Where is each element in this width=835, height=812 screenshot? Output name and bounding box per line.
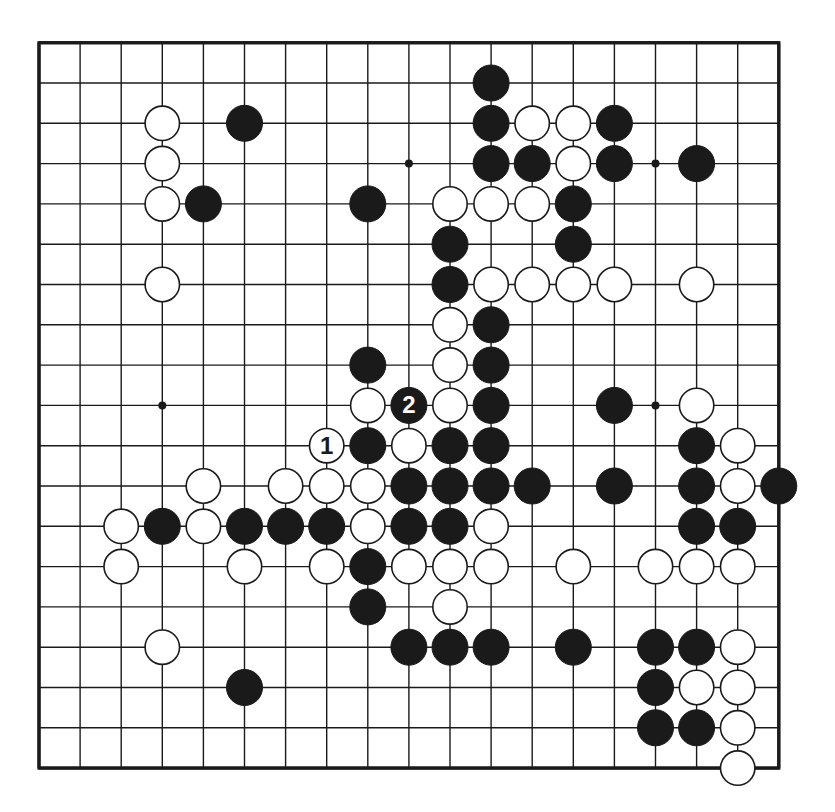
black-stone[interactable] [473, 146, 509, 182]
black-stone[interactable] [638, 710, 674, 746]
white-stone[interactable] [433, 549, 467, 583]
black-stone[interactable] [473, 105, 509, 141]
white-stone[interactable] [721, 711, 755, 745]
black-stone[interactable] [473, 387, 509, 423]
white-stone[interactable] [392, 429, 426, 463]
white-stone[interactable] [721, 469, 755, 503]
white-stone[interactable] [145, 267, 179, 301]
black-stone[interactable] [473, 428, 509, 464]
black-stone[interactable] [227, 508, 263, 544]
black-stone[interactable] [638, 670, 674, 706]
white-stone[interactable] [145, 106, 179, 140]
white-stone[interactable] [433, 590, 467, 624]
black-stone[interactable] [185, 186, 221, 222]
black-stone[interactable] [679, 146, 715, 182]
white-stone[interactable] [310, 549, 344, 583]
white-stone[interactable] [186, 469, 220, 503]
white-stone[interactable] [597, 267, 631, 301]
white-stone[interactable] [556, 267, 590, 301]
white-stone[interactable] [679, 388, 713, 422]
black-stone[interactable] [391, 629, 427, 665]
black-stone[interactable] [596, 146, 632, 182]
black-stone[interactable] [432, 267, 468, 303]
white-stone[interactable] [679, 670, 713, 704]
white-stone[interactable] [721, 549, 755, 583]
white-stone[interactable] [721, 429, 755, 463]
white-stone[interactable] [104, 549, 138, 583]
white-stone[interactable] [556, 106, 590, 140]
black-stone[interactable] [391, 508, 427, 544]
white-stone[interactable] [515, 106, 549, 140]
black-stone[interactable] [555, 226, 591, 262]
white-stone[interactable] [515, 187, 549, 221]
black-stone[interactable] [309, 508, 345, 544]
white-stone[interactable] [515, 267, 549, 301]
white-stone[interactable] [145, 146, 179, 180]
black-stone[interactable] [350, 347, 386, 383]
black-stone[interactable] [473, 629, 509, 665]
black-stone[interactable] [761, 468, 797, 504]
white-stone[interactable] [145, 630, 179, 664]
black-stone[interactable] [350, 589, 386, 625]
white-stone[interactable] [638, 549, 672, 583]
black-stone[interactable] [391, 468, 427, 504]
white-stone[interactable] [433, 308, 467, 342]
black-stone[interactable] [227, 105, 263, 141]
numbered-stone-2[interactable]: 2 [391, 387, 427, 423]
white-stone[interactable] [721, 630, 755, 664]
white-stone[interactable] [104, 509, 138, 543]
black-stone[interactable] [679, 428, 715, 464]
black-stone[interactable] [720, 508, 756, 544]
black-stone[interactable] [473, 307, 509, 343]
white-stone[interactable] [351, 509, 385, 543]
white-stone[interactable] [474, 549, 508, 583]
white-stone[interactable] [227, 549, 261, 583]
white-stone[interactable] [186, 509, 220, 543]
white-stone[interactable] [474, 509, 508, 543]
black-stone[interactable] [514, 468, 550, 504]
black-stone[interactable] [679, 508, 715, 544]
black-stone[interactable] [350, 549, 386, 585]
white-stone[interactable] [474, 267, 508, 301]
black-stone[interactable] [596, 105, 632, 141]
black-stone[interactable] [473, 468, 509, 504]
black-stone[interactable] [432, 428, 468, 464]
white-stone[interactable] [679, 267, 713, 301]
black-stone[interactable] [432, 508, 468, 544]
white-stone[interactable] [392, 549, 426, 583]
white-stone[interactable] [433, 187, 467, 221]
black-stone[interactable] [473, 65, 509, 101]
white-stone[interactable] [268, 469, 302, 503]
black-stone[interactable] [432, 468, 468, 504]
white-stone[interactable] [679, 549, 713, 583]
white-stone[interactable] [556, 146, 590, 180]
black-stone[interactable] [268, 508, 304, 544]
black-stone[interactable] [350, 428, 386, 464]
black-stone[interactable] [432, 226, 468, 262]
black-stone[interactable] [555, 186, 591, 222]
black-stone[interactable] [350, 186, 386, 222]
white-stone[interactable] [433, 348, 467, 382]
black-stone[interactable] [638, 629, 674, 665]
black-stone[interactable] [596, 387, 632, 423]
black-stone[interactable] [679, 629, 715, 665]
white-stone[interactable] [556, 549, 590, 583]
white-stone[interactable] [351, 388, 385, 422]
black-stone[interactable] [514, 146, 550, 182]
black-stone[interactable] [679, 468, 715, 504]
black-stone[interactable] [596, 468, 632, 504]
white-stone[interactable] [721, 751, 755, 785]
black-stone[interactable] [473, 347, 509, 383]
white-stone[interactable] [351, 469, 385, 503]
white-stone[interactable] [721, 670, 755, 704]
black-stone[interactable] [679, 710, 715, 746]
black-stone[interactable] [227, 670, 263, 706]
numbered-stone-1[interactable]: 1 [310, 429, 344, 463]
white-stone[interactable] [433, 388, 467, 422]
white-stone[interactable] [310, 469, 344, 503]
black-stone[interactable] [432, 629, 468, 665]
white-stone[interactable] [474, 187, 508, 221]
white-stone[interactable] [145, 187, 179, 221]
black-stone[interactable] [555, 629, 591, 665]
black-stone[interactable] [144, 508, 180, 544]
